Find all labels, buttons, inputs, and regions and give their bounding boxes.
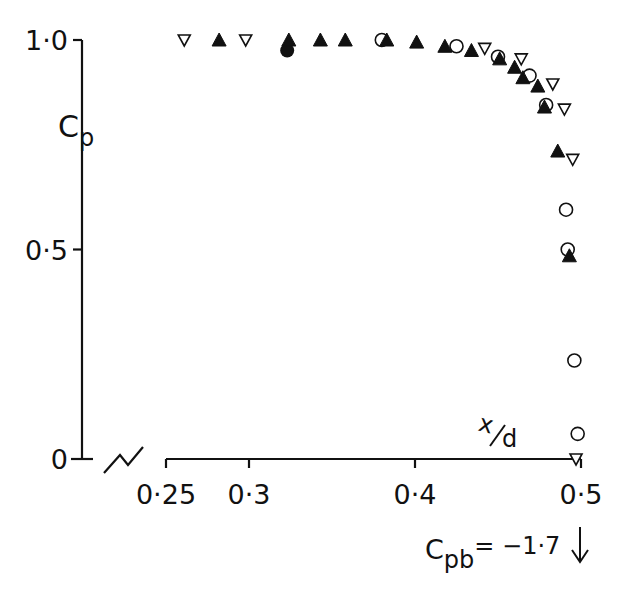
x-axis-label-denominator: d bbox=[502, 425, 517, 453]
filled-triangle-marker bbox=[282, 33, 296, 46]
y-axis-label: Cp bbox=[58, 109, 94, 152]
x-tick-label: 0·5 bbox=[560, 479, 603, 510]
filled-triangle-marker bbox=[212, 33, 226, 46]
filled-triangle-marker bbox=[551, 144, 565, 157]
filled-triangle-marker bbox=[410, 35, 424, 48]
open-inverted-triangle-marker bbox=[178, 35, 190, 46]
open-circle-marker bbox=[450, 40, 463, 53]
open-inverted-triangle-marker bbox=[547, 79, 559, 90]
filled-triangle-marker bbox=[380, 33, 394, 46]
annotation-value: = −1·7 bbox=[474, 532, 560, 560]
filled-triangle-marker bbox=[464, 43, 478, 56]
open-inverted-triangle-marker bbox=[515, 54, 527, 65]
scatter-plot: 00·51·00·250·30·40·5 Cp x d Cpb= −1·7 bbox=[0, 0, 617, 607]
open-inverted-triangle-marker bbox=[558, 104, 570, 115]
open-inverted-triangle-marker bbox=[240, 35, 252, 46]
y-tick-label: 0 bbox=[51, 444, 68, 475]
y-tick-label: 1·0 bbox=[25, 25, 68, 56]
data-points bbox=[178, 33, 584, 465]
x-axis-label: x d bbox=[476, 409, 517, 453]
y-tick-label: 0·5 bbox=[25, 235, 68, 266]
filled-triangle-marker bbox=[313, 33, 327, 46]
open-circle-marker bbox=[568, 354, 581, 367]
annotation-main: C bbox=[425, 534, 444, 565]
axis-break-icon bbox=[104, 447, 143, 473]
open-inverted-triangle-marker bbox=[567, 154, 579, 165]
x-tick-label: 0·4 bbox=[394, 479, 437, 510]
x-axis-label-numerator: x bbox=[476, 409, 497, 440]
x-tick-label: 0·25 bbox=[136, 479, 196, 510]
open-circle-marker bbox=[560, 203, 573, 216]
annotation-sub: pb bbox=[444, 546, 474, 574]
x-tick-label: 0·3 bbox=[228, 479, 271, 510]
filled-triangle-marker bbox=[338, 33, 352, 46]
down-arrow-icon bbox=[572, 527, 588, 562]
annotation-cpb: Cpb= −1·7 bbox=[425, 532, 560, 574]
axes bbox=[71, 40, 581, 473]
open-inverted-triangle-marker bbox=[479, 43, 491, 54]
y-axis-label-main: C bbox=[58, 109, 79, 144]
chart: 00·51·00·250·30·40·5 Cp x d Cpb= −1·7 bbox=[0, 0, 617, 607]
open-circle-marker bbox=[571, 427, 584, 440]
y-axis-label-sub: p bbox=[79, 124, 94, 152]
